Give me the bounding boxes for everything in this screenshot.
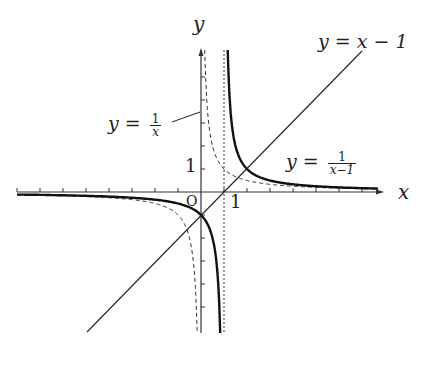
fraction-numerator: 1 bbox=[150, 113, 162, 126]
y-axis-arrow-icon bbox=[199, 48, 204, 56]
y-tick-label-1: 1 bbox=[185, 155, 196, 176]
fraction-denominator: x bbox=[150, 126, 162, 138]
label-line-lhs: y bbox=[318, 30, 329, 52]
y-axis-label: y bbox=[193, 12, 204, 36]
origin-label: O bbox=[186, 193, 197, 209]
fraction-denominator: x−1 bbox=[328, 164, 356, 176]
label-shifted-reciprocal: y = 1 x−1 bbox=[286, 150, 356, 176]
label-reciprocal-fraction: 1 x bbox=[150, 113, 162, 138]
axes bbox=[17, 48, 384, 333]
x-tick-label-1: 1 bbox=[230, 191, 241, 212]
label-leader-line bbox=[172, 112, 200, 122]
label-reciprocal: y = 1 x bbox=[108, 112, 161, 138]
label-shifted-lhs: y bbox=[286, 150, 297, 172]
fraction-numerator: 1 bbox=[328, 151, 356, 164]
x-axis-arrow-icon bbox=[376, 190, 384, 195]
label-reciprocal-eq: = bbox=[125, 112, 141, 134]
label-line-eq: = bbox=[335, 30, 351, 52]
label-reciprocal-lhs: y bbox=[108, 112, 119, 134]
function-graph bbox=[0, 0, 427, 373]
label-shifted-fraction: 1 x−1 bbox=[328, 151, 356, 176]
x-axis-label: x bbox=[398, 180, 409, 204]
label-shifted-eq: = bbox=[303, 150, 319, 172]
label-line-rhs: x − 1 bbox=[357, 30, 408, 52]
label-line: y = x − 1 bbox=[318, 30, 408, 52]
